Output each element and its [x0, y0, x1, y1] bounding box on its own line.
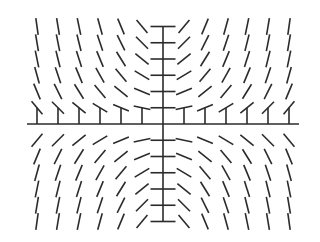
- slope-segment: [264, 84, 272, 99]
- slope-segment: [245, 213, 248, 230]
- slope-segment: [176, 88, 192, 94]
- slope-segment: [35, 181, 38, 198]
- slope-segment: [117, 182, 126, 196]
- slope-segment: [134, 139, 151, 142]
- slope-segment: [262, 134, 274, 146]
- slope-segment: [75, 149, 84, 163]
- slope-segment: [202, 214, 209, 230]
- slope-segment: [179, 20, 190, 33]
- slope-segment: [135, 71, 150, 80]
- slope-segment: [98, 213, 103, 229]
- slope-segment: [97, 197, 102, 213]
- slope-segment: [137, 20, 148, 33]
- slope-segment: [240, 135, 253, 146]
- slope-segment: [34, 84, 41, 100]
- slope-segment: [245, 18, 248, 35]
- slope-segment: [76, 181, 81, 197]
- slope-segment: [77, 18, 80, 35]
- slope-segment: [136, 37, 148, 49]
- slope-segment: [266, 51, 270, 68]
- slope-segment: [36, 18, 38, 35]
- slope-segment: [136, 199, 148, 211]
- slope-segment: [222, 68, 230, 83]
- slope-segment: [201, 198, 209, 213]
- slope-segment: [134, 153, 150, 159]
- slope-segment: [223, 51, 230, 67]
- slope-segment: [200, 166, 211, 179]
- slope-segment: [54, 84, 62, 99]
- slope-segment: [287, 165, 292, 181]
- slope-segment: [117, 198, 125, 213]
- slope-segment: [134, 88, 150, 94]
- slope-segment: [57, 213, 60, 230]
- slope-segment: [284, 134, 295, 147]
- slope-segment: [245, 35, 249, 52]
- slope-segment: [96, 68, 104, 83]
- slope-segment: [244, 181, 249, 197]
- slope-segment: [93, 136, 108, 145]
- slope-segment: [200, 69, 211, 82]
- slope-segment: [34, 149, 41, 165]
- slope-segment: [201, 35, 209, 50]
- slope-segment: [36, 213, 38, 230]
- slope-segment: [198, 151, 211, 162]
- slope-segment: [201, 182, 210, 196]
- slope-segment: [77, 213, 80, 230]
- slope-segment: [221, 85, 232, 98]
- slope-segment: [201, 52, 210, 66]
- slope-segment: [202, 19, 209, 35]
- slope-segment: [35, 165, 40, 181]
- slope-segment: [222, 165, 230, 180]
- slope-segment: [116, 166, 127, 179]
- slope-segment: [267, 18, 270, 35]
- slope-field-canvas: [0, 0, 320, 242]
- slope-segment: [32, 134, 43, 147]
- slope-segment: [95, 85, 106, 98]
- slope-segment: [224, 18, 229, 34]
- slope-segment: [117, 52, 126, 66]
- slope-segment: [224, 213, 229, 229]
- slope-segment: [98, 18, 103, 34]
- slope-segment: [96, 165, 104, 180]
- slope-segment: [244, 67, 251, 83]
- slope-segment: [72, 135, 85, 146]
- slope-segment: [118, 214, 125, 230]
- slope-segment: [223, 35, 228, 51]
- slope-segment: [97, 181, 104, 197]
- slope-segment: [288, 213, 290, 230]
- slope-segment: [76, 165, 83, 181]
- slope-segment: [76, 67, 83, 83]
- slope-segment: [135, 184, 148, 195]
- slope-segment: [288, 197, 291, 214]
- slope-segment: [287, 181, 290, 198]
- slope-segment: [221, 150, 232, 163]
- slope-segment: [286, 84, 293, 100]
- slope-segment: [55, 67, 60, 83]
- slope-segment: [54, 149, 62, 164]
- slope-segment: [265, 165, 270, 181]
- slope-segment: [56, 51, 60, 68]
- slope-segment: [266, 34, 269, 51]
- slope-segment: [243, 149, 252, 163]
- slope-segment: [95, 150, 106, 163]
- slope-segment: [179, 215, 190, 228]
- slope-segment: [77, 197, 81, 214]
- slope-segment: [52, 134, 64, 146]
- slope-segment: [287, 67, 292, 83]
- slope-segment: [117, 35, 125, 50]
- slope-segment: [267, 213, 270, 230]
- slope-segment: [223, 181, 230, 197]
- slope-segment: [219, 136, 234, 145]
- slope-segment: [177, 54, 190, 65]
- slope-segment: [118, 19, 125, 35]
- slope-segment: [77, 35, 81, 52]
- slope-segment: [265, 67, 270, 83]
- slope-segment: [176, 153, 192, 159]
- slope-segment: [55, 165, 60, 181]
- slope-segment: [57, 18, 60, 35]
- axes: [27, 26, 299, 221]
- slope-segment: [114, 151, 127, 162]
- slope-segment: [197, 137, 213, 143]
- slope-segment: [264, 149, 272, 164]
- slope-field-diagram: [0, 0, 320, 242]
